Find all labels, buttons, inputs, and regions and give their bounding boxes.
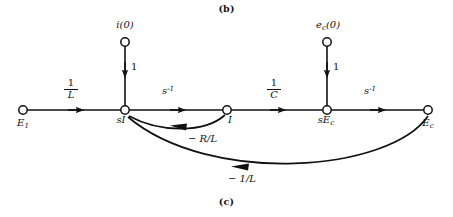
node-label-i0: i(0): [105, 20, 145, 30]
node-label-Ec: Ec: [417, 118, 439, 130]
edge-curve-Ec-sI: [128, 116, 428, 171]
edge-label-i0-sI: 1: [131, 62, 137, 72]
edge-label-sI-I: s-1: [162, 86, 174, 96]
edge-label-I-sEc: 1 C: [267, 78, 281, 100]
node-label-sI: sI: [111, 115, 131, 125]
graph-canvas: [0, 0, 453, 217]
edge-label-ec0-sEc: 1: [333, 62, 339, 72]
node-label-I: I: [222, 115, 238, 125]
figure-caption-bottom: (c): [0, 196, 453, 207]
edge-lines-forward: [27, 46, 424, 110]
node-E1[interactable]: [19, 106, 27, 114]
node-Ec[interactable]: [424, 106, 432, 114]
node-ec0[interactable]: [323, 38, 331, 46]
edge-label-I-sI: − R/L: [188, 134, 217, 144]
edge-label-Ec-sI: − 1/L: [228, 174, 256, 184]
node-label-E1: E1: [13, 118, 33, 130]
signal-flow-graph-figure: (b): [0, 0, 453, 217]
edge-label-E1-sI: 1 L: [64, 78, 78, 100]
node-sI[interactable]: [121, 106, 129, 114]
graph-nodes: [19, 38, 432, 114]
node-label-sEc: sEc: [311, 115, 341, 127]
node-label-ec0: ec(0): [305, 20, 351, 32]
node-i0[interactable]: [121, 38, 129, 46]
arrowhead-Ec-sI: [231, 164, 249, 171]
node-sEc[interactable]: [323, 106, 331, 114]
edge-label-sEc-Ec: s-1: [364, 86, 376, 96]
node-I[interactable]: [223, 106, 231, 114]
